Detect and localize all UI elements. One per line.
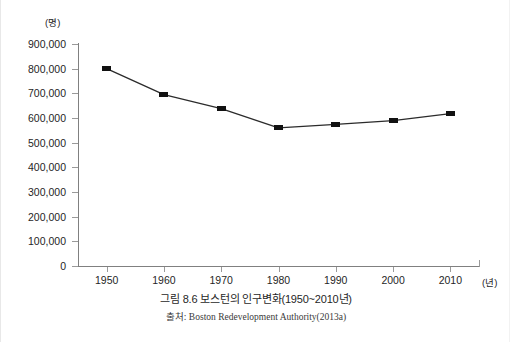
x-tick xyxy=(450,267,451,272)
y-tick-label: 700,000 xyxy=(0,88,66,99)
x-axis-right-cap xyxy=(479,260,480,267)
y-tick xyxy=(72,69,78,70)
x-tick xyxy=(164,267,165,272)
y-tick-label: 200,000 xyxy=(0,212,66,223)
y-tick xyxy=(72,93,78,94)
y-tick xyxy=(72,217,78,218)
x-tick-label: 1980 xyxy=(249,274,309,286)
y-tick xyxy=(72,192,78,193)
y-tick-label: 400,000 xyxy=(0,162,66,173)
data-point-marker xyxy=(217,106,226,111)
x-tick xyxy=(393,267,394,272)
y-tick-label: 900,000 xyxy=(0,39,66,50)
data-point-marker xyxy=(331,122,340,127)
y-tick-label: 600,000 xyxy=(0,113,66,124)
x-tick xyxy=(107,267,108,272)
y-tick xyxy=(72,44,78,45)
y-axis-line xyxy=(78,43,79,267)
y-tick-label: 0 xyxy=(0,261,66,272)
y-tick-label: 100,000 xyxy=(0,236,66,247)
y-tick-label: 800,000 xyxy=(0,64,66,75)
x-tick-label: 1960 xyxy=(134,274,194,286)
population-chart-figure: (명) 900,000800,000700,000600,000500,0004… xyxy=(0,0,510,342)
x-tick-label: 1990 xyxy=(306,274,366,286)
figure-caption: 그림 8.6 보스턴의 인구변화(1950~2010년) xyxy=(1,290,510,306)
y-tick xyxy=(72,143,78,144)
x-tick xyxy=(221,267,222,272)
x-tick xyxy=(336,267,337,272)
data-point-marker xyxy=(274,125,283,130)
y-axis-unit-label: (명) xyxy=(45,15,60,29)
y-tick xyxy=(72,118,78,119)
y-tick xyxy=(72,266,78,267)
x-tick-label: 1970 xyxy=(191,274,251,286)
y-tick xyxy=(72,241,78,242)
data-point-marker xyxy=(159,92,168,97)
x-tick-label: 1950 xyxy=(77,274,137,286)
data-point-marker xyxy=(102,66,111,71)
x-tick-label: 2010 xyxy=(420,274,480,286)
figure-source: 출처: Boston Redevelopment Authority(2013a… xyxy=(1,309,510,323)
y-tick-label: 300,000 xyxy=(0,187,66,198)
y-tick-label: 500,000 xyxy=(0,138,66,149)
x-axis-unit-label: (년) xyxy=(482,275,497,289)
y-tick xyxy=(72,167,78,168)
data-point-marker xyxy=(446,111,455,116)
x-tick xyxy=(279,267,280,272)
x-tick-label: 2000 xyxy=(363,274,423,286)
data-point-marker xyxy=(389,118,398,123)
